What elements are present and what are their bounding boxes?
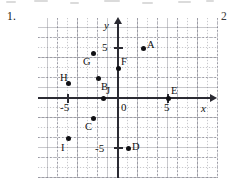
point-label-h: H [60, 73, 68, 84]
coordinate-plane-figure: y x -5 5 5 -5 0 A B C D E F G H I J [38, 18, 218, 178]
y-axis-label: y [104, 19, 109, 31]
x-axis-tick-label-5: 5 [164, 101, 170, 113]
point-label-d: D [132, 142, 140, 153]
y-axis-tick-label-minus5: -5 [95, 142, 104, 154]
point-label-i: I [61, 143, 65, 154]
point-dot-a [141, 46, 146, 51]
y-axis-tick-5 [114, 47, 123, 49]
x-axis-line [38, 97, 211, 99]
point-label-a: A [147, 40, 155, 51]
x-axis-arrowhead-icon [210, 94, 217, 102]
x-axis-tick-label-minus5: -5 [60, 101, 69, 113]
origin-label: 0 [121, 101, 127, 113]
point-label-j: J [106, 86, 110, 97]
y-axis-arrowhead-icon [114, 17, 122, 24]
scan-noise-artifact [0, 0, 228, 7]
x-axis-label: x [201, 102, 206, 114]
point-dot-g [91, 51, 96, 56]
point-dot-b [96, 76, 101, 81]
problem-number: 1. [7, 11, 16, 23]
point-dot-d [126, 146, 131, 151]
point-label-g: G [83, 57, 91, 68]
point-label-c: C [85, 122, 92, 133]
point-dot-j [101, 96, 106, 101]
point-label-e: E [171, 86, 177, 97]
next-problem-number: 2 [221, 11, 228, 23]
point-dot-f [116, 66, 121, 71]
point-label-f: F [121, 57, 127, 68]
point-dot-c [91, 116, 96, 121]
y-axis-tick-label-5: 5 [102, 41, 108, 53]
point-dot-e [166, 96, 171, 101]
point-dot-i [66, 136, 71, 141]
y-axis-tick-minus5 [114, 147, 123, 149]
